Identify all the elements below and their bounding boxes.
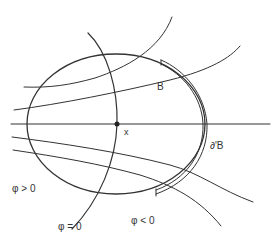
label-point-x: x [124,127,129,137]
point-x-dot [115,122,120,127]
label-boundary-prime-B: ∂'B [210,140,224,151]
label-B: B [157,81,164,92]
diagram-canvas: x B ∂'B φ > 0 φ = 0 φ < 0 [0,0,278,241]
label-phi-positive: φ > 0 [12,183,36,194]
level-set-phi-zero [72,33,117,229]
label-phi-negative: φ < 0 [131,215,155,226]
field-line-1 [24,17,172,87]
field-line-4 [13,150,221,226]
field-line-2 [14,46,240,110]
label-phi-zero: φ = 0 [58,221,82,232]
